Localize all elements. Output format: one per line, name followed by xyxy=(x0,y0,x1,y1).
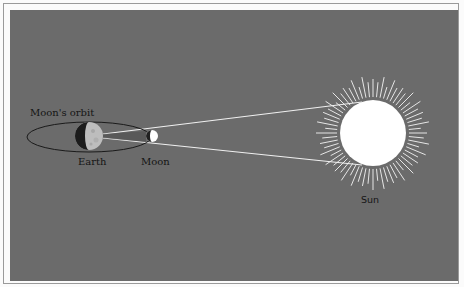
moon-label: Moon xyxy=(141,157,170,167)
earth-label: Earth xyxy=(78,157,107,167)
earth-icon xyxy=(75,122,103,150)
orbit-label: Moon's orbit xyxy=(30,108,94,118)
sun-label: Sun xyxy=(361,195,379,205)
sun-disc xyxy=(340,100,406,166)
moon-icon xyxy=(146,130,158,142)
eclipse-diagram xyxy=(0,0,464,287)
figure-page: Moon's orbit Earth Moon Sun xyxy=(0,0,464,287)
